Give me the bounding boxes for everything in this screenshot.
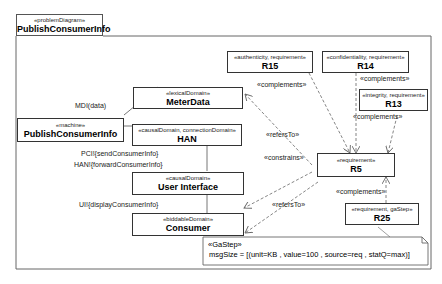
meterdata-node[interactable]: «lexicalDomain» MeterData xyxy=(133,87,243,109)
complements-r14-label: «complements» xyxy=(360,75,409,83)
han-stereotype: «causalDomain, connectionDomain» xyxy=(133,126,241,134)
complements-r13-label: «complements» xyxy=(353,113,402,121)
machine-node[interactable]: «machine» PublishConsumerInfo xyxy=(17,118,124,142)
r14-node[interactable]: «confidentiality, requirement» R14 xyxy=(322,51,409,73)
r25-name: R25 xyxy=(346,213,418,224)
r13-name: R13 xyxy=(360,99,427,110)
user-interface-node[interactable]: «causalDomain» User Interface xyxy=(132,172,244,195)
interface-pci-label: PCI!{sendConsumerInfo} xyxy=(81,150,158,158)
han-name: HAN xyxy=(133,134,241,145)
meterdata-name: MeterData xyxy=(134,97,242,108)
constrains-ui-label: «constrains» xyxy=(264,154,304,162)
r14-name: R14 xyxy=(323,61,408,72)
interface-mdi-label: MDI(data) xyxy=(75,102,106,110)
interface-ui-label: UI!{displayConsumerInfo} xyxy=(79,201,158,209)
refersto-meterdata-label: «refersTo» xyxy=(266,131,299,139)
diagram-frame-tab: «problemDiagram» PublishConsumerInfo xyxy=(16,14,103,36)
frame-title: PublishConsumerInfo xyxy=(17,24,102,35)
interface-han-label: HAN!{forwardConsumerInfo} xyxy=(74,161,163,169)
note-stereotype: «GaStep» xyxy=(208,240,428,250)
complements-r25-label: «complements» xyxy=(336,188,385,196)
consumer-name: Consumer xyxy=(133,223,243,234)
r13-node[interactable]: «integrity, requirement» R13 xyxy=(359,89,428,111)
note-text: msgSize = [(unit=KB , value=100 , source… xyxy=(208,250,428,260)
consumer-node[interactable]: «biddableDomain» Consumer xyxy=(132,213,244,236)
machine-stereotype: «machine» xyxy=(18,121,123,129)
r5-name: R5 xyxy=(318,164,394,175)
r15-node[interactable]: «authenticity, requirement» R15 xyxy=(227,51,313,73)
meterdata-stereotype: «lexicalDomain» xyxy=(134,89,242,97)
han-node[interactable]: «causalDomain, connectionDomain» HAN xyxy=(132,124,242,146)
machine-name: PublishConsumerInfo xyxy=(18,129,123,140)
gastep-note[interactable]: «GaStep» msgSize = [(unit=KB , value=100… xyxy=(203,237,428,265)
complements-r15-label: «complements» xyxy=(257,81,306,89)
r5-node[interactable]: «requirement» R5 xyxy=(317,153,395,177)
r15-name: R15 xyxy=(228,61,312,72)
r25-node[interactable]: «requirement, gaStep» R25 xyxy=(345,203,419,225)
r14-stereotype: «confidentiality, requirement» xyxy=(323,53,408,61)
ui-stereotype: «causalDomain» xyxy=(133,174,243,182)
r13-stereotype: «integrity, requirement» xyxy=(360,91,427,99)
consumer-stereotype: «biddableDomain» xyxy=(133,215,243,223)
frame-stereotype: «problemDiagram» xyxy=(17,16,102,24)
refersto-consumer-label: «refersTo» xyxy=(272,201,305,209)
r25-stereotype: «requirement, gaStep» xyxy=(346,205,418,213)
r15-stereotype: «authenticity, requirement» xyxy=(228,53,312,61)
r5-stereotype: «requirement» xyxy=(318,156,394,164)
ui-name: User Interface xyxy=(133,182,243,193)
